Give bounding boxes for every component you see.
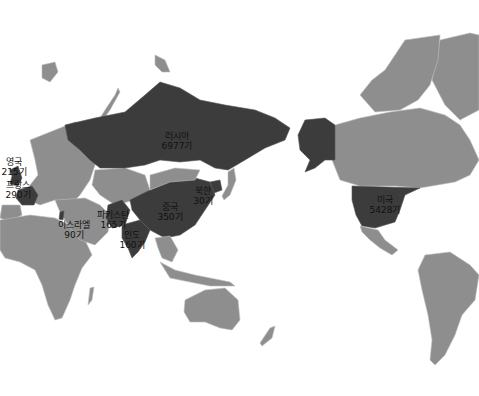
landmass-southeast-asia <box>155 236 178 262</box>
label-india-count: 160기 <box>119 240 144 250</box>
label-israel-name: 이스라엘 <box>58 220 90 230</box>
label-israel-count: 90기 <box>58 230 90 240</box>
landmass-madagascar <box>88 287 94 305</box>
label-uk-name: 영국 <box>1 157 26 167</box>
landmass-new-zealand <box>260 326 275 346</box>
label-uk-count: 215기 <box>1 167 26 177</box>
label-israel: 이스라엘 90기 <box>58 220 90 240</box>
label-china-count: 350기 <box>157 212 182 222</box>
landmass-south-america <box>418 252 479 365</box>
label-usa-count: 5428기 <box>370 205 401 215</box>
label-usa: 미국 5428기 <box>370 195 401 215</box>
label-india-name: 인도 <box>119 230 144 240</box>
world-map <box>0 0 479 396</box>
label-pakistan-name: 파키스탄 <box>97 210 129 220</box>
label-russia-count: 6977기 <box>162 141 193 151</box>
landmass-svalbard <box>42 62 58 82</box>
country-japan <box>222 168 236 200</box>
landmass-arctic-canada <box>360 35 440 112</box>
label-usa-name: 미국 <box>370 195 401 205</box>
country-israel <box>59 211 64 220</box>
country-usa-alaska <box>298 118 335 172</box>
landmass-indonesia <box>160 262 235 286</box>
label-india: 인도 160기 <box>119 230 144 250</box>
label-uk: 영국 215기 <box>1 157 26 177</box>
country-russia <box>65 82 290 170</box>
label-north-korea-count: 30기 <box>193 196 212 206</box>
label-russia: 러시아 6977기 <box>162 131 193 151</box>
label-france-name: 프랑스 <box>5 180 30 190</box>
label-china-name: 중국 <box>157 202 182 212</box>
landmass-australia <box>184 288 240 330</box>
landmass-franz-josef <box>155 55 170 72</box>
label-france-count: 290기 <box>5 190 30 200</box>
label-pakistan-count: 165기 <box>97 220 129 230</box>
country-mexico <box>360 226 398 255</box>
label-north-korea: 북한 30기 <box>193 186 212 206</box>
label-france: 프랑스 290기 <box>5 180 30 200</box>
country-canada <box>332 108 479 188</box>
label-china: 중국 350기 <box>157 202 182 222</box>
label-russia-name: 러시아 <box>162 131 193 141</box>
label-north-korea-name: 북한 <box>193 186 212 196</box>
label-pakistan: 파키스탄 165기 <box>97 210 129 230</box>
